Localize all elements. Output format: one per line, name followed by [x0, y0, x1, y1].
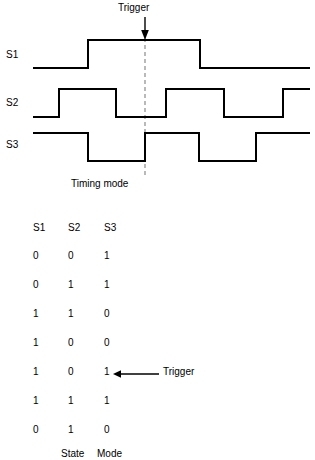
table-header-s1: S1: [33, 222, 45, 234]
table-row: 0: [33, 250, 39, 262]
waveform-s3: [33, 133, 310, 161]
table-footer-state: State: [61, 448, 84, 460]
table-row: 0: [104, 337, 110, 349]
table-row: 1: [68, 308, 74, 320]
table-trigger-arrow-icon: [113, 369, 159, 379]
table-row: 1: [104, 250, 110, 262]
table-trigger-label: Trigger: [163, 366, 194, 378]
timing-diagram-panel: S1 S2 S3 Trigger Timing mode: [0, 0, 315, 200]
table-row: 0: [33, 424, 39, 436]
waveform-s2: [33, 89, 310, 117]
table-row: 1: [33, 366, 39, 378]
signal-label-s1: S1: [6, 49, 19, 60]
waveform-s1: [33, 40, 310, 68]
signal-label-s2: S2: [6, 97, 19, 108]
table-row: 0: [33, 279, 39, 291]
trigger-caption: Trigger: [118, 2, 149, 14]
table-row: 0: [68, 337, 74, 349]
table-row: 0: [68, 250, 74, 262]
table-row: 1: [104, 279, 110, 291]
table-row: 1: [104, 395, 110, 407]
table-footer-mode: Mode: [97, 448, 122, 460]
table-row: 0: [68, 366, 74, 378]
table-row: 0: [104, 424, 110, 436]
table-row: 1: [33, 395, 39, 407]
signal-label-s3: S3: [6, 139, 19, 150]
table-row: 1: [104, 366, 110, 378]
table-row: 1: [68, 424, 74, 436]
table-row: 1: [68, 279, 74, 291]
table-row: 0: [104, 308, 110, 320]
trigger-arrow-icon: [141, 17, 149, 40]
table-row: 1: [33, 308, 39, 320]
table-header-s3: S3: [104, 222, 116, 234]
table-row: 1: [33, 337, 39, 349]
table-header-s2: S2: [68, 222, 80, 234]
table-row: 1: [68, 395, 74, 407]
waveform-svg: [0, 0, 315, 200]
timing-mode-caption: Timing mode: [71, 178, 128, 190]
state-mode-table: S1 S2 S3 0 0 1 0 1 1 1 1 0 1 0 0 1 0 1 T…: [0, 222, 315, 453]
